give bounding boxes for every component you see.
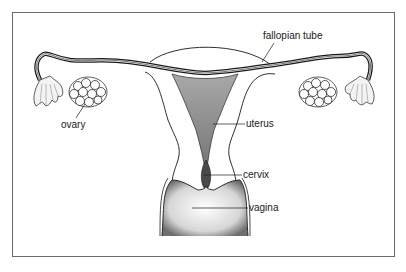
reproductive-system-illustration [0,0,406,272]
label-ovary: ovary [61,120,85,130]
cervical-canal [201,160,210,189]
ovary-left [69,77,107,107]
label-fallopian-tube: fallopian tube [263,31,323,41]
uterine-cavity [172,74,238,175]
ovary-right [299,77,337,107]
label-vagina: vagina [249,203,278,213]
label-cervix: cervix [243,170,269,180]
label-uterus: uterus [246,119,274,129]
